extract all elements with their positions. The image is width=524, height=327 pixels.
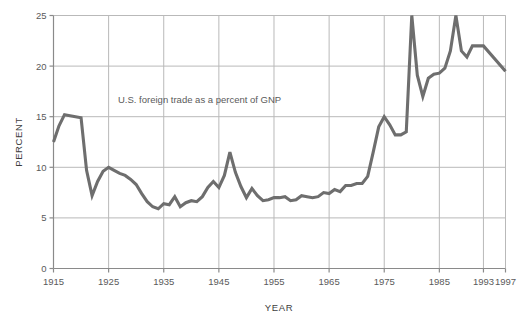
x-tick-labels: 1915192519351945195519651975198519931997 (43, 276, 516, 287)
x-tick-label: 1993 (473, 276, 494, 287)
y-tick-label: 20 (36, 61, 47, 72)
x-axis-title: YEAR (265, 302, 293, 313)
x-tick-label: 1925 (98, 276, 119, 287)
x-tick-label: 1985 (429, 276, 450, 287)
x-tick-label: 1945 (208, 276, 229, 287)
chart-figure: 0510152025 19151925193519451955196519751… (0, 0, 524, 327)
x-tick-label: 1915 (43, 276, 64, 287)
y-tick-label: 15 (36, 111, 47, 122)
y-tick-label: 10 (36, 162, 47, 173)
y-tick-label: 25 (36, 10, 47, 21)
x-tick-label: 1997 (495, 276, 516, 287)
y-tick-label: 0 (41, 263, 46, 274)
x-tick-label: 1935 (153, 276, 174, 287)
x-tick-label: 1965 (319, 276, 340, 287)
chart-annotation: U.S. foreign trade as a percent of GNP (118, 94, 281, 105)
y-tick-label: 5 (41, 212, 46, 223)
x-tick-label: 1975 (374, 276, 395, 287)
foreign-trade-line-chart: 0510152025 19151925193519451955196519751… (0, 0, 524, 327)
y-axis-title: PERCENT (13, 117, 24, 167)
x-tick-label: 1955 (263, 276, 284, 287)
